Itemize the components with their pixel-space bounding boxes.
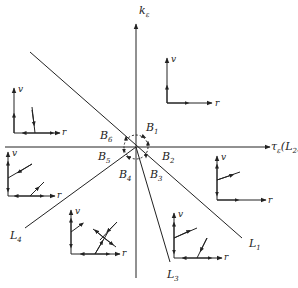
line-l4 <box>25 147 136 228</box>
svg-text:r: r <box>62 127 67 137</box>
phase-portrait-b1 <box>167 58 212 103</box>
tau-arg-open: (L <box>281 140 293 153</box>
phase-portrait-b6 <box>14 88 60 133</box>
l1-sub: 1 <box>256 244 260 252</box>
b2-sub: 2 <box>170 157 174 165</box>
svg-text:v: v <box>221 152 226 162</box>
vertical-axis-label: kε <box>139 5 149 19</box>
l3-sub: 3 <box>174 275 178 283</box>
label-l4: L4 <box>10 230 22 244</box>
label-b5: B5 <box>98 151 111 165</box>
b4-sub: 4 <box>127 175 131 183</box>
svg-text:r: r <box>122 248 127 258</box>
phase-portrait-b2 <box>217 156 266 200</box>
b1-name: B <box>146 121 154 134</box>
horizontal-axis-label: τε(L2) <box>271 141 298 155</box>
svg-text:v: v <box>18 84 23 94</box>
phase-portrait-b3 <box>174 213 222 258</box>
k-subscript: ε <box>146 11 150 19</box>
tau-arg-close: ) <box>297 140 298 153</box>
svg-text:v: v <box>12 148 17 158</box>
label-b3: B3 <box>150 169 163 183</box>
boundary-lines <box>25 52 242 262</box>
b3-name: B <box>150 168 158 181</box>
label-b2: B2 <box>162 151 175 165</box>
label-b1: B1 <box>146 122 159 136</box>
b1-sub: 1 <box>154 128 158 136</box>
b6-name: B <box>100 129 108 142</box>
b2-name: B <box>162 150 170 163</box>
label-b4: B4 <box>119 169 132 183</box>
phase-portrait-b5 <box>8 152 55 196</box>
svg-text:v: v <box>178 209 183 219</box>
svg-text:r: r <box>268 195 273 205</box>
b5-sub: 5 <box>106 157 110 165</box>
label-l1: L1 <box>249 238 261 252</box>
svg-text:r: r <box>215 98 220 108</box>
b3-sub: 3 <box>158 175 162 183</box>
svg-text:r: r <box>57 190 62 200</box>
phase-portrait-b4 <box>71 210 120 254</box>
b4-name: B <box>119 168 127 181</box>
svg-text:v: v <box>75 206 80 216</box>
l4-sub: 4 <box>17 236 21 244</box>
label-l3: L3 <box>167 269 179 283</box>
label-b6: B6 <box>100 130 113 144</box>
svg-text:v: v <box>171 54 176 64</box>
svg-text:r: r <box>224 252 229 262</box>
b5-name: B <box>98 150 106 163</box>
k-symbol: k <box>139 4 146 17</box>
b6-sub: 6 <box>108 136 112 144</box>
